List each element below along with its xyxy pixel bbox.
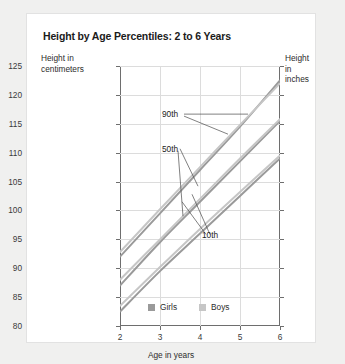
y-axis-left-tick-label: 120: [0, 90, 22, 100]
y-axis-left-tick-label: 85: [0, 292, 22, 302]
legend-label-boys: Boys: [211, 302, 229, 312]
x-axis-title: Age in years: [27, 350, 315, 360]
tick-mark-right: [280, 182, 284, 183]
x-axis-tick-label: 2: [107, 332, 133, 342]
tick-mark-x: [200, 326, 201, 330]
tick-mark-right: [280, 66, 284, 67]
y-axis-left-title: Height in centimeters: [41, 53, 84, 74]
tick-mark-right: [280, 297, 284, 298]
y-axis-left-tick-label: 105: [0, 177, 22, 187]
annotation-10th: 10th: [202, 230, 218, 240]
plot-area: 80859095100105110115120125 31.533.535.43…: [120, 66, 280, 326]
x-axis-tick-label: 4: [187, 332, 213, 342]
legend-item-girls: Girls: [148, 302, 177, 312]
chart-card: Height by Age Percentiles: 2 to 6 Years …: [26, 13, 316, 343]
annotation-leader-lines: [120, 66, 280, 326]
tick-mark-right: [280, 124, 284, 125]
tick-mark-x: [160, 326, 161, 330]
annotation-50th: 50th: [162, 144, 178, 154]
x-axis-tick-label: 3: [147, 332, 173, 342]
y-axis-left-tick-label: 90: [0, 263, 22, 273]
tick-mark-right: [280, 153, 284, 154]
leader-line: [178, 151, 183, 216]
legend-item-boys: Boys: [199, 302, 229, 312]
tick-mark-right: [280, 95, 284, 96]
page-title: Height by Age Percentiles: 2 to 6 Years: [43, 30, 231, 42]
y-axis-left-tick-label: 115: [0, 119, 22, 129]
tick-mark-x: [120, 326, 121, 330]
leader-line: [184, 116, 228, 134]
y-axis-right-title: Height in inches: [285, 53, 315, 85]
leader-line: [192, 194, 210, 234]
annotation-90th: 90th: [162, 109, 178, 119]
tick-mark-right: [280, 268, 284, 269]
legend-swatch-boys: [199, 304, 206, 311]
x-axis-tick-label: 5: [227, 332, 253, 342]
y-axis-left-tick-label: 95: [0, 234, 22, 244]
legend-swatch-girls: [148, 304, 155, 311]
leader-line: [180, 149, 198, 186]
chart-legend: Girls Boys: [148, 302, 230, 312]
y-axis-left-tick-label: 110: [0, 148, 22, 158]
legend-label-girls: Girls: [160, 302, 177, 312]
y-axis-left-tick-label: 100: [0, 205, 22, 215]
tick-mark-x: [280, 326, 281, 330]
tick-mark-right: [280, 210, 284, 211]
y-axis-left-tick-label: 125: [0, 61, 22, 71]
y-axis-left-tick-label: 80: [0, 321, 22, 331]
tick-mark-right: [280, 239, 284, 240]
x-axis-tick-label: 6: [267, 332, 293, 342]
tick-mark-x: [240, 326, 241, 330]
